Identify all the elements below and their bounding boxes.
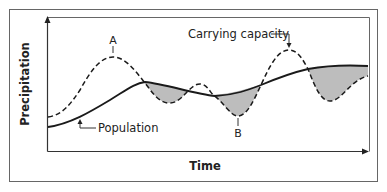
point-a-label: A	[109, 34, 117, 47]
y-axis-title: Precipitation	[18, 42, 32, 126]
shaded-deficit-regions	[145, 66, 368, 116]
point-b-label: B	[234, 127, 242, 140]
carrying-capacity-diagram: A B Carrying capacity Population Precipi…	[0, 0, 387, 192]
x-axis-title: Time	[189, 159, 221, 173]
carrying-capacity-arrow-icon	[287, 43, 292, 48]
population-label: Population	[98, 121, 158, 135]
x-axis-arrow-icon	[362, 149, 369, 155]
population-arrow-icon	[78, 119, 83, 124]
population-leader	[80, 123, 96, 128]
